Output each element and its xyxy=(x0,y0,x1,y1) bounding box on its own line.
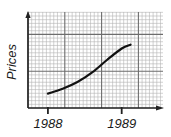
x-tick-label: 1988 xyxy=(33,116,63,131)
y-axis-label: Prices xyxy=(4,43,19,80)
x-tick-label: 1989 xyxy=(107,116,136,131)
x-axis-arrow-icon xyxy=(156,105,164,110)
price-curve-line xyxy=(48,45,131,94)
price-chart: 19881989 Prices xyxy=(0,0,171,137)
x-ticks: 19881989 xyxy=(33,107,136,131)
series-layer xyxy=(48,45,131,94)
